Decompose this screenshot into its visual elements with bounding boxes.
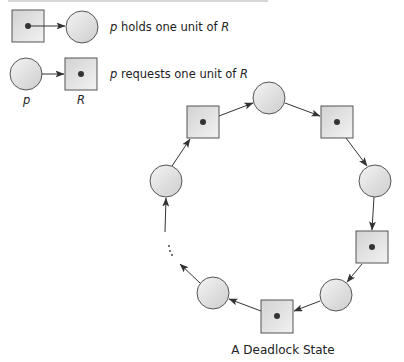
- resource-unit-dot-icon: [78, 71, 84, 77]
- legend-holds-label: p holds one unit of R: [109, 20, 229, 34]
- resource-node-r1: [187, 106, 219, 138]
- process-node-p1: [253, 82, 285, 114]
- legend-process-label: p: [22, 93, 30, 107]
- process-node-p2: [359, 165, 391, 197]
- resource-allocation-graph: p holds one unit of R p requests one uni…: [0, 0, 404, 362]
- process-node-p3: [320, 279, 352, 311]
- legend-requests-label: p requests one unit of R: [109, 67, 248, 81]
- edge-p3-r4: [294, 301, 320, 311]
- legend-resource-label: R: [77, 93, 85, 107]
- edge-p0-r1: [172, 139, 190, 166]
- edge-r2-p2: [346, 138, 367, 166]
- process-node-p4: [197, 277, 229, 309]
- edge-r4-p4: [229, 299, 261, 311]
- legend-holds: p holds one unit of R: [12, 10, 229, 43]
- process-circle-icon: [10, 58, 42, 90]
- legend: p holds one unit of R p requests one uni…: [10, 10, 248, 107]
- edge-r3-p3: [347, 264, 362, 282]
- deadlock-cycle: [150, 82, 391, 333]
- resource-unit-dot-icon: [200, 119, 206, 125]
- resource-unit-dot-icon: [369, 244, 375, 250]
- clipped-top-text: [8, 0, 268, 2]
- ellipsis-icon: [168, 245, 173, 256]
- edge-continuation-p0: [165, 198, 166, 232]
- figure-caption: A Deadlock State: [231, 343, 334, 357]
- resource-unit-dot-icon: [274, 313, 280, 319]
- resource-unit-dot-icon: [334, 119, 340, 125]
- process-node-p0: [150, 165, 182, 197]
- legend-requests: p requests one unit of R: [10, 58, 248, 90]
- resource-node-r2: [321, 106, 353, 138]
- edge-r1-p1: [219, 103, 253, 116]
- edge-p1-r2: [285, 103, 320, 116]
- edge-p4-continuation: [180, 264, 200, 283]
- edge-p2-r3: [372, 197, 374, 230]
- resource-node-r3: [356, 231, 388, 263]
- process-circle-icon: [66, 11, 98, 43]
- resource-node-r4: [261, 300, 293, 333]
